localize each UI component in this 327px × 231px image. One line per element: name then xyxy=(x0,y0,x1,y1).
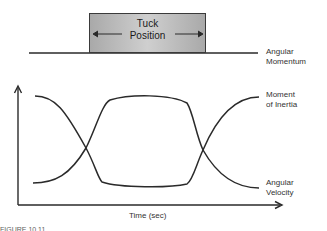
tuck-position-label: Tuck Position xyxy=(90,18,205,42)
tuck-momentum-diagram: Tuck Position Angular Momentum Moment of… xyxy=(0,0,327,231)
angular-velocity-label: Angular Velocity xyxy=(266,178,294,198)
tuck-label-line1: Tuck xyxy=(90,18,205,30)
angular-momentum-label: Angular Momentum xyxy=(266,47,306,67)
figure-caption-fragment: FIGURE 10.11 xyxy=(0,226,45,231)
moment-of-inertia-label: Moment of Inertia xyxy=(266,90,297,110)
angular-velocity-curve xyxy=(33,96,259,188)
angular-velocity-label-line2: Velocity xyxy=(266,188,294,198)
moment-of-inertia-label-line1: Moment xyxy=(266,90,297,100)
x-axis-label: Time (sec) xyxy=(129,211,166,221)
angular-momentum-label-line2: Momentum xyxy=(266,57,306,67)
tuck-label-line2: Position xyxy=(90,30,205,42)
moment-of-inertia-label-line2: of Inertia xyxy=(266,100,297,110)
angular-velocity-label-line1: Angular xyxy=(266,178,294,188)
angular-momentum-label-line1: Angular xyxy=(266,47,306,57)
tuck-position-box: Tuck Position xyxy=(89,13,206,53)
moment-of-inertia-curve xyxy=(35,96,259,187)
